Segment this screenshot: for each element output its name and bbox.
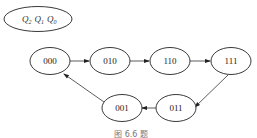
arrow-111-to-011 [195,75,228,107]
state-label: 000 [43,56,57,66]
legend-sub-2: 2 [29,19,32,25]
transitions [64,61,228,108]
legend-sub-1: 1 [41,19,44,25]
legend-text: Q2Q1Q0 [22,14,57,25]
state-000: 000 [30,48,70,75]
state-label: 001 [115,103,129,113]
state-label: 010 [103,56,117,66]
legend: Q2Q1Q0 [4,7,72,32]
state-label: 011 [169,103,182,113]
state-diagram: Q2Q1Q0 000 010 110 111 011 [0,0,257,138]
state-111: 111 [211,48,251,75]
state-001: 001 [102,95,142,122]
state-010: 010 [90,48,130,75]
state-110: 110 [150,48,190,75]
figure-caption: 图 6.6 题 [114,130,148,138]
state-label: 110 [163,56,177,66]
legend-sub-0: 0 [54,19,57,25]
state-label: 111 [225,56,238,66]
state-011: 011 [156,95,196,122]
arrow-001-to-000 [64,74,104,102]
